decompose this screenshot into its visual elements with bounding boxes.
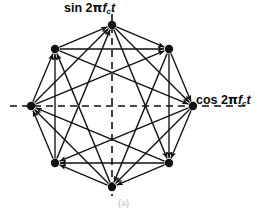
transition-arrow [116, 110, 190, 184]
sin-coef: 2 [86, 1, 93, 15]
cos-time: t [247, 93, 251, 107]
constellation-point [51, 159, 59, 167]
constellation-point [165, 45, 173, 53]
constellation-point [108, 21, 116, 29]
constellation-point [51, 45, 59, 53]
constellation-point [27, 102, 35, 110]
constellation-point [108, 183, 116, 191]
cos-func: cos [196, 93, 218, 107]
transition-arrow [35, 29, 109, 103]
constellation-point [165, 159, 173, 167]
axis-label-sin: sin 2πfct [64, 2, 115, 16]
sin-time: t [111, 1, 115, 15]
cos-coef: 2 [221, 93, 228, 107]
sin-func: sin [64, 1, 82, 15]
cos-pi: π [228, 92, 238, 107]
figure-caption: (a) [118, 198, 129, 208]
constellation-figure: sin 2πfct cos 2πfct (a) [0, 0, 263, 211]
axis-label-cos: cos 2πfct [196, 94, 251, 108]
transition-arrow [116, 29, 190, 103]
sin-pi: π [93, 0, 103, 15]
transition-arrow [35, 110, 109, 184]
